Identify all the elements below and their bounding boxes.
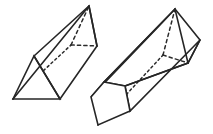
prisms-figure bbox=[0, 0, 213, 134]
prisms-svg bbox=[0, 0, 213, 134]
